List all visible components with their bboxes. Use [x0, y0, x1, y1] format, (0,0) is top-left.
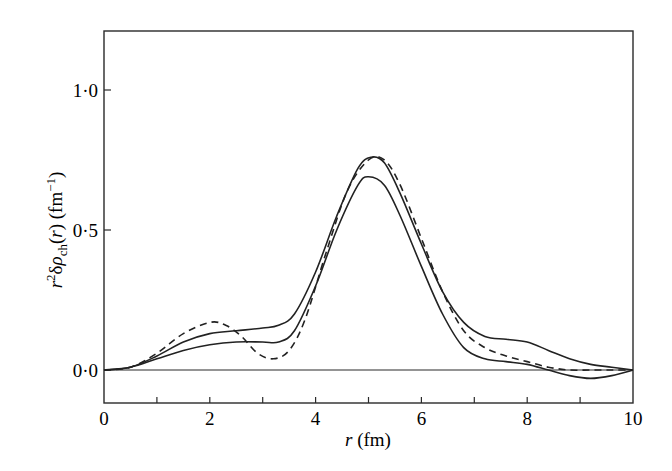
x-tick-label: 8: [522, 408, 532, 429]
axis-ticks: [104, 90, 580, 403]
x-tick-label: 0: [99, 408, 109, 429]
plot-border: [104, 31, 633, 403]
x-tick-label: 10: [624, 408, 643, 429]
series-solid-upper: [104, 157, 633, 370]
y-tick-label: 0·0: [73, 360, 98, 381]
x-tick-label: 6: [417, 408, 427, 429]
plot-frame: [104, 31, 633, 403]
x-tick-label: 4: [311, 408, 321, 429]
axis-tick-labels: 02468100·00·51·0: [73, 80, 643, 429]
y-tick-label: 1·0: [73, 80, 98, 101]
data-series: [104, 156, 633, 378]
series-solid-lower: [104, 177, 633, 379]
chart: 02468100·00·51·0 r (fm) r2δρch(r) (fm−1): [0, 0, 672, 471]
y-axis-label: r2δρch(r) (fm−1): [43, 172, 70, 289]
series-dashed: [104, 156, 633, 370]
x-axis-label: r (fm): [345, 429, 391, 451]
x-tick-label: 2: [205, 408, 215, 429]
y-tick-label: 0·5: [73, 220, 98, 241]
